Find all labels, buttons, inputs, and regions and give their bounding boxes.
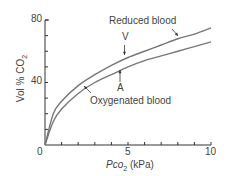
annotation-v: V xyxy=(122,32,129,42)
x-tick-label-5: 5 xyxy=(125,147,131,157)
co2-dissociation-chart: 80 40 0 5 10 Pco2 (kPa) Vol % CO2 Reduce… xyxy=(0,0,228,176)
x-axis-label-var: Pco xyxy=(106,159,123,170)
y-axis-label-sub: 2 xyxy=(21,55,28,59)
arrow-v-head xyxy=(123,52,126,55)
y-axis-label: Vol % CO2 xyxy=(15,54,28,104)
annotation-a: A xyxy=(117,83,124,93)
plot-area xyxy=(0,0,228,176)
x-tick-label-10: 10 xyxy=(205,147,216,157)
y-tick-label-80: 80 xyxy=(31,14,42,24)
legend-reduced-blood: Reduced blood xyxy=(109,16,176,26)
y-axis-label-text: Vol % CO xyxy=(15,59,26,102)
reduced-blood-curve xyxy=(45,28,211,145)
x-axis-label-unit: (kPa) xyxy=(127,159,154,170)
legend-oxygenated-blood: Oxygenated blood xyxy=(90,96,171,106)
x-tick-label-0: 0 xyxy=(37,147,43,157)
y-tick-label-40: 40 xyxy=(31,76,42,86)
x-axis-label: Pco2 (kPa) xyxy=(106,160,154,172)
